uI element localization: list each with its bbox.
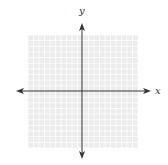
coordinate-plane: y x [0,0,168,165]
x-axis-label: x [155,85,161,96]
y-axis-label: y [78,5,85,16]
